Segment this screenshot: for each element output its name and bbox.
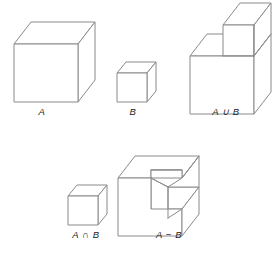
shape-difference-a-b (118, 156, 199, 236)
shape-cube-b (117, 62, 156, 102)
figure-canvas (0, 0, 274, 253)
shape-union-a-b (190, 3, 271, 114)
caption-a: A (39, 106, 46, 117)
shape-intersection-a-b (68, 185, 107, 225)
union-upper-front-face (223, 25, 254, 56)
intersection-front-face (68, 196, 98, 225)
caption-difference: A − B (156, 229, 182, 240)
caption-intersection: A ∩ B (72, 229, 99, 240)
difference-notch-left-wall (151, 170, 182, 178)
shape-cube-a (14, 22, 95, 102)
caption-union: A ∪ B (212, 106, 240, 117)
cube-a-front-face (14, 44, 78, 102)
set-operations-figure: A B A ∪ B A ∩ B A − B (0, 0, 274, 253)
caption-b: B (130, 106, 137, 117)
cube-b-front-face (117, 73, 147, 102)
